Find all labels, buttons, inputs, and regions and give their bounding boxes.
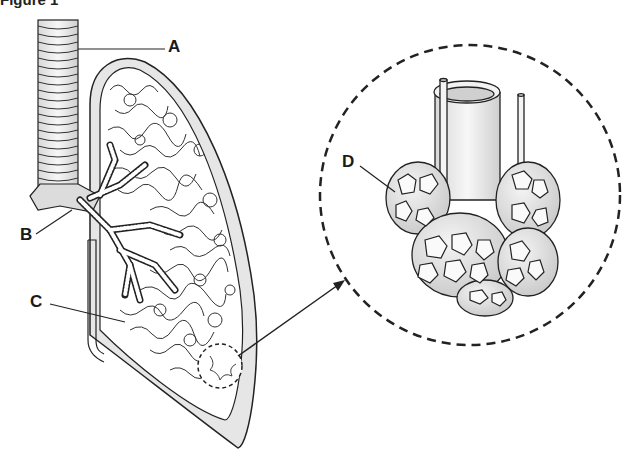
lung-diagram <box>0 0 631 476</box>
alveolus-highlight <box>198 344 242 388</box>
leader-line-d <box>360 166 395 192</box>
lung <box>88 59 257 448</box>
label-b: B <box>20 225 32 245</box>
alveolar-sac <box>386 79 560 317</box>
label-d: D <box>342 152 354 172</box>
label-a: A <box>168 37 180 57</box>
label-c: C <box>30 292 42 312</box>
leader-line-b <box>36 210 72 234</box>
